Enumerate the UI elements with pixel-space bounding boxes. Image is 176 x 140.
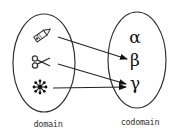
arrow-scissors-to-gamma bbox=[58, 64, 126, 84]
domain-label: domain bbox=[34, 119, 63, 129]
codomain-set: α β γ codomain bbox=[108, 12, 166, 127]
mapping-arrows bbox=[53, 37, 127, 88]
function-mapping-diagram: domain α β γ codomain bbox=[0, 0, 176, 140]
scissors-icon bbox=[32, 56, 50, 68]
codomain-element-beta: β bbox=[130, 50, 140, 70]
codomain-element-gamma: γ bbox=[130, 73, 140, 93]
codomain-label: codomain bbox=[121, 117, 160, 127]
pencil-icon bbox=[34, 27, 52, 42]
domain-set: domain bbox=[13, 14, 75, 129]
codomain-element-alpha: α bbox=[129, 27, 141, 47]
arrow-pencil-to-beta bbox=[58, 37, 127, 59]
asterisk-icon bbox=[33, 80, 48, 95]
arrow-asterisk-to-gamma bbox=[53, 87, 126, 88]
